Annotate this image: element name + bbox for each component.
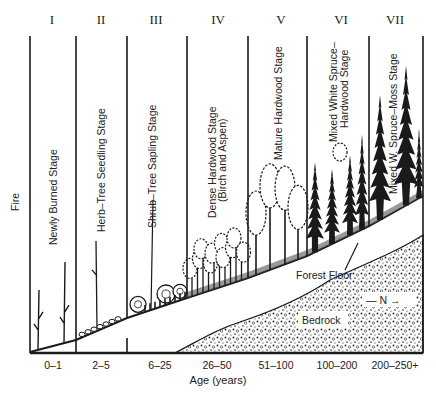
- fire-label: Fire: [9, 193, 21, 211]
- seedling-clump-icon: [103, 322, 109, 326]
- burned-snag-icon: [92, 241, 97, 329]
- burned-snag-icon: [34, 290, 43, 350]
- seedling-clump-icon: [97, 324, 103, 328]
- mature-crown-icon: [288, 185, 308, 229]
- age-label-4: 26–50: [202, 359, 231, 371]
- stage-numeral-4: IV: [211, 12, 225, 27]
- stage-name-5: Mature Hardwood Stage: [272, 46, 284, 160]
- hardwood-crown-icon: [333, 143, 347, 161]
- stage-name-6b: Hardwood Stage: [338, 50, 350, 128]
- burned-snag-icon: [60, 262, 69, 343]
- age-label-1: 0–1: [44, 359, 62, 371]
- seedling-clump-icon: [115, 317, 121, 321]
- north-arrow: — N →: [366, 294, 400, 306]
- seedling-clump-icon: [109, 319, 115, 323]
- stage-name-2: Herb–Tree Seedling Stage: [95, 108, 107, 232]
- stage-name-3: Shrub–Tree Sapling Stage: [146, 104, 158, 228]
- forest-floor-pointer: [345, 243, 358, 270]
- age-label-6: 100–200: [317, 359, 358, 371]
- stage-name-7: Mixed W. Spruce–Moss Stage: [387, 53, 399, 194]
- stage-name-4b: (Birch and Aspen): [216, 119, 228, 202]
- stage-numeral-7: VII: [386, 12, 404, 27]
- stage-numeral-1: I: [50, 12, 54, 27]
- spruce-tree-icon: [306, 162, 324, 252]
- age-label-5: 51–100: [258, 359, 293, 371]
- stage-name-1: Newly Burned Stage: [47, 149, 59, 245]
- spruce-tree-icon: [324, 169, 340, 244]
- stage-numeral-2: II: [97, 12, 106, 27]
- stage-numeral-6: VI: [334, 12, 348, 27]
- shrub-icon: [130, 296, 146, 312]
- spruce-tree-icon: [355, 134, 369, 229]
- seedling-clump-icon: [91, 327, 97, 331]
- age-label-7: 200–250+: [371, 359, 418, 371]
- age-label-3: 6–25: [148, 359, 172, 371]
- forest-floor-label: Forest Floor: [296, 269, 353, 281]
- x-axis-title: Age (years): [190, 374, 247, 386]
- seedling-clump-icon: [79, 332, 85, 336]
- age-label-2: 2–5: [92, 359, 110, 371]
- bedrock-label: Bedrock: [302, 314, 341, 326]
- succession-diagram: I II III IV V VI VII Fire Newly Burned S…: [0, 0, 436, 398]
- stage-numeral-3: III: [150, 12, 163, 27]
- spruce-tree-icon: [342, 155, 358, 235]
- seedling-clump-icon: [85, 330, 91, 334]
- stage-numeral-5: V: [276, 12, 286, 27]
